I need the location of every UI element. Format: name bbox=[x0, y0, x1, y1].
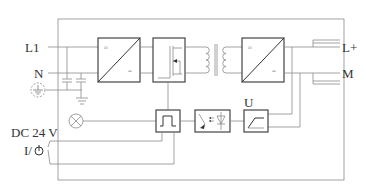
voltage-control-block bbox=[244, 110, 268, 132]
svg-text:I/: I/ bbox=[24, 143, 32, 158]
output-terminal-m bbox=[313, 73, 340, 84]
power-supply-block-diagram: L1 N L+ M DC 24 V U I/ bbox=[0, 0, 366, 188]
mosfet-switch-block bbox=[153, 38, 185, 82]
svg-text:≈: ≈ bbox=[104, 44, 108, 52]
svg-text:=: = bbox=[128, 67, 132, 75]
label-m: M bbox=[342, 66, 354, 81]
input-rectifier-block: ≈ = bbox=[98, 38, 140, 82]
switch-label: I/ bbox=[24, 143, 43, 158]
label-dc24v: DC 24 V bbox=[11, 125, 58, 140]
remote-switch bbox=[48, 132, 174, 164]
transformer-icon bbox=[206, 44, 226, 76]
optocoupler-block bbox=[195, 110, 230, 132]
ground-icon bbox=[76, 98, 88, 104]
label-l-plus: L+ bbox=[342, 40, 357, 55]
pulse-generator-block bbox=[156, 110, 180, 132]
label-n: N bbox=[34, 66, 44, 81]
output-rectifier-block: ≈ = bbox=[242, 38, 284, 82]
earth-terminal-icon bbox=[31, 83, 45, 97]
label-u: U bbox=[244, 95, 254, 110]
svg-text:=: = bbox=[272, 67, 276, 75]
output-terminal-lplus bbox=[313, 40, 340, 47]
svg-text:≈: ≈ bbox=[248, 44, 252, 52]
label-l1: L1 bbox=[25, 40, 39, 55]
indicator-lamp-icon bbox=[69, 114, 83, 128]
